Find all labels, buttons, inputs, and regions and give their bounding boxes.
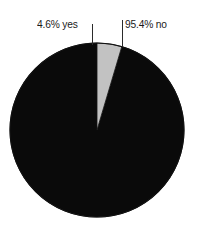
pie-label-yes: 4.6% yes xyxy=(37,18,78,31)
pie-slices xyxy=(10,43,184,217)
leader-line-yes xyxy=(92,24,93,45)
pie-chart-graphic xyxy=(0,0,197,228)
pie-chart-figure: 4.6% yes 95.4% no xyxy=(0,0,197,228)
leader-line-no xyxy=(122,20,123,46)
pie-label-no: 95.4% no xyxy=(125,18,167,31)
